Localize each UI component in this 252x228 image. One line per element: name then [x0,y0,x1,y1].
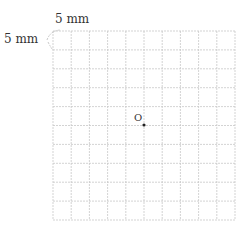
point-label: O [134,112,142,123]
grid-diagram [0,0,252,228]
